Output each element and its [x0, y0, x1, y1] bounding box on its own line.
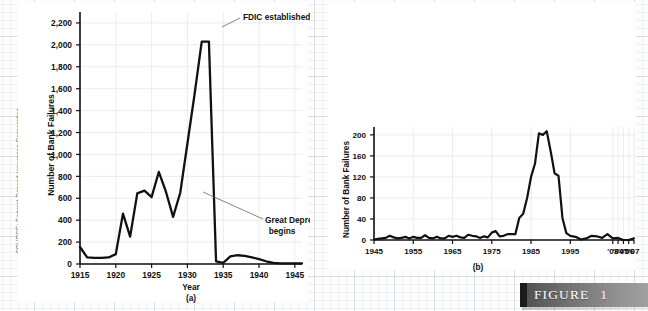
chart-b-y-tick-200: 200 — [352, 131, 366, 140]
chart-a-x-tick-1920: 1920 — [106, 270, 125, 280]
chart-a-y-tick-1600: 1,600 — [51, 84, 72, 94]
chart-a-y-tick-400: 400 — [58, 215, 72, 225]
chart-a-svg: 02004006008001,0001,2001,4001,6001,8002,… — [18, 2, 310, 304]
chart-a-y-ticks: 02004006008001,0001,2001,4001,6001,8002,… — [51, 18, 80, 269]
bank-failures-chart-1915-1945: 02004006008001,0001,2001,4001,6001,8002,… — [18, 2, 310, 304]
chart-b-x-tick-1945: 1945 — [365, 247, 384, 256]
chart-b-x-tick-1995: 1995 — [561, 247, 580, 256]
chart-a-y-tick-1200: 1,200 — [51, 128, 72, 138]
bank-failures-chart-1945-2007: 04080120160200 194519551965197519851995'… — [328, 2, 640, 282]
chart-b-x-tick-1985: 1985 — [522, 247, 541, 256]
chart-a-y-tick-800: 800 — [58, 172, 72, 182]
chart-a-y-tick-600: 600 — [58, 193, 72, 203]
chart-b-x-tick-1965: 1965 — [444, 247, 463, 256]
chart-a-y-tick-1400: 1,400 — [51, 106, 72, 116]
figure-caption-bar: FIGURE1 — [520, 283, 648, 307]
figure-number: 1 — [600, 287, 608, 302]
chart-a-y-tick-1800: 1,800 — [51, 62, 72, 72]
chart-a-depression-leader-line — [203, 192, 263, 219]
chart-b-y-tick-120: 120 — [352, 173, 366, 182]
chart-a-y-tick-2000: 2,000 — [51, 40, 72, 50]
chart-a-x-tick-1915: 1915 — [71, 270, 90, 280]
figure-bar-edge — [520, 283, 527, 307]
chart-a-annotation-fdic: FDIC established — [243, 12, 310, 22]
chart-b-y-tick-0: 0 — [361, 236, 366, 245]
figure-caption-text: FIGURE1 — [534, 287, 608, 303]
chart-b-x-tick-1955: 1955 — [404, 247, 423, 256]
chart-a-x-tick-1935: 1935 — [214, 270, 233, 280]
chart-a-x-ticks: 1915192019251930193519401945 — [71, 264, 305, 280]
chart-a-x-tick-1940: 1940 — [250, 270, 269, 280]
chart-a-panel-label: (a) — [186, 293, 196, 303]
chart-b-y-tick-160: 160 — [352, 152, 366, 161]
chart-b-gridlines — [374, 127, 634, 240]
chart-a-y-tick-200: 200 — [58, 237, 72, 247]
chart-a-y-tick-2200: 2,200 — [51, 18, 72, 28]
chart-b-y-tick-40: 40 — [357, 215, 367, 224]
chart-a-x-tick-1945: 1945 — [286, 270, 305, 280]
chart-b-panel-label: (b) — [473, 262, 484, 272]
chart-a-y-tick-0: 0 — [67, 259, 72, 269]
chart-b-y-ticks: 04080120160200 — [352, 131, 374, 245]
chart-a-fdic-leader-line — [222, 18, 240, 27]
chart-a-y-tick-1000: 1,000 — [51, 150, 72, 160]
figure-bar-shadow — [522, 307, 648, 310]
chart-b-svg: 04080120160200 194519551965197519851995'… — [328, 2, 640, 282]
chart-b-x-ticks: 194519551965197519851995'03'04'05'06'07 — [365, 240, 640, 256]
chart-a-annotation-depression-line2: begins — [269, 226, 296, 236]
chart-a-x-tick-1930: 1930 — [178, 270, 197, 280]
chart-b-x-tick-1975: 1975 — [483, 247, 502, 256]
chart-a-x-axis-title: Year — [182, 282, 200, 292]
chart-b-y-tick-80: 80 — [357, 194, 367, 203]
figure-label: FIGURE — [534, 287, 589, 302]
chart-b-x-tick-07: '07 — [629, 247, 640, 256]
chart-a-annotation-depression-line1: Great Depression — [265, 215, 310, 225]
chart-a-x-tick-1925: 1925 — [142, 270, 161, 280]
